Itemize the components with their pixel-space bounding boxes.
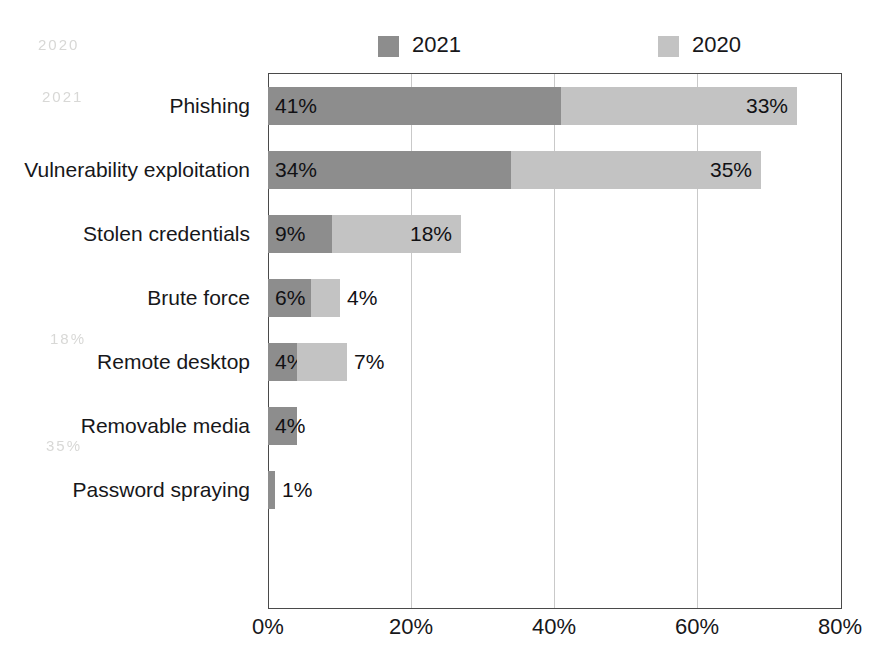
x-tick-20: 20%: [389, 614, 433, 640]
x-tick-0: 0%: [252, 614, 284, 640]
y-label-password-spraying: Password spraying: [73, 471, 250, 509]
gridline-40: [554, 74, 555, 608]
legend-item-2021[interactable]: 2021: [378, 35, 461, 57]
legend-item-2020[interactable]: 2020: [658, 35, 741, 57]
y-label-vulnerability-exploitation: Vulnerability exploitation: [24, 151, 250, 189]
gridline-20: [411, 74, 412, 608]
y-label-brute-force: Brute force: [147, 279, 250, 317]
y-label-removable-media: Removable media: [81, 407, 250, 445]
legend-label-2020: 2020: [692, 34, 741, 56]
x-tick-40: 40%: [532, 614, 576, 640]
plot-area: [268, 73, 842, 609]
legend-swatch-2021-icon: [378, 36, 399, 57]
chart-legend: 2021 2020: [0, 32, 895, 66]
x-tick-60: 60%: [675, 614, 719, 640]
y-label-remote-desktop: Remote desktop: [97, 343, 250, 381]
legend-label-2021: 2021: [412, 34, 461, 56]
y-axis-category-labels: Phishing Vulnerability exploitation Stol…: [0, 73, 262, 607]
gridline-60: [697, 74, 698, 608]
legend-swatch-2020-icon: [658, 36, 679, 57]
x-tick-80: 80%: [818, 614, 862, 640]
x-axis-tick-labels: 0% 20% 40% 60% 80%: [0, 614, 895, 654]
y-label-stolen-credentials: Stolen credentials: [83, 215, 250, 253]
chart-container: 2020 2021 18% 35% 2021 2020 40% 60% 80% …: [0, 0, 895, 666]
y-label-phishing: Phishing: [169, 87, 250, 125]
gridlines: [269, 74, 841, 608]
